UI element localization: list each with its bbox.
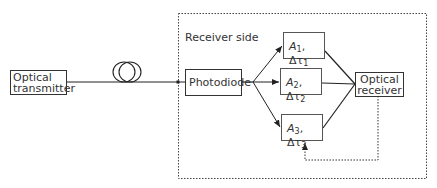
branch2-block[interactable]: A2, Δτ2	[280, 68, 322, 95]
branch1-amp: A	[289, 40, 297, 53]
branch1-delay: Δτ	[289, 54, 303, 67]
branch2-sep: ,	[299, 76, 303, 89]
branch2-to-receiver	[322, 83, 355, 84]
branch3-sep: ,	[300, 122, 304, 135]
transmitter-line2: transmitter	[13, 83, 64, 94]
branch2-delay-sub: 2	[300, 95, 305, 104]
photodiode-block[interactable]: Photodiode	[185, 69, 242, 96]
branch3-block[interactable]: A3, Δτ3	[281, 114, 323, 141]
optical-receiver-block[interactable]: Optical receiver	[355, 72, 404, 97]
branch1-block[interactable]: A1, Δτ1	[283, 32, 325, 59]
receiver-side-label: Receiver side	[185, 31, 259, 44]
branch3-to-receiver	[323, 84, 355, 128]
branch2-amp: A	[286, 76, 294, 89]
boundary-junction-marker	[177, 81, 180, 84]
optical-transmitter-block[interactable]: Optical transmitter	[10, 70, 67, 95]
receiver-line2: receiver	[356, 85, 403, 96]
branch2-delay: Δτ	[286, 90, 300, 103]
photodiode-label: Photodiode	[189, 76, 251, 89]
arrow-to-branch3	[253, 82, 280, 127]
branch3-delay: Δτ	[287, 136, 301, 149]
branch1-delay-sub: 1	[303, 59, 308, 68]
fiber-coil-icon	[113, 62, 141, 82]
branch1-sep: ,	[302, 40, 306, 53]
branch3-delay-sub: 3	[301, 141, 306, 150]
branch3-amp: A	[287, 122, 295, 135]
branch1-to-receiver	[325, 51, 355, 84]
arrow-to-branch1	[253, 46, 282, 82]
